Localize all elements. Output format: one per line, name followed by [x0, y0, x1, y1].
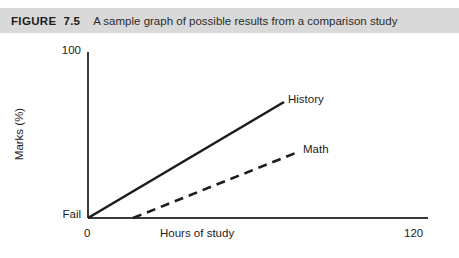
figure-caption-text: A sample graph of possible results from …: [93, 15, 397, 27]
figure-caption-bar: FIGURE 7.5 A sample graph of possible re…: [0, 8, 459, 33]
x-axis-tick-120: 120: [404, 227, 423, 239]
x-axis-tick-0: 0: [84, 227, 90, 239]
chart-svg: [0, 33, 459, 258]
y-axis-tick-fail: Fail: [40, 208, 81, 220]
x-axis-title: Hours of study: [160, 227, 234, 239]
series-line-math: [133, 152, 298, 218]
figure-label-word: FIGURE: [11, 15, 57, 27]
chart-area: Marks (%) Hours of study 100 Fail 0 120 …: [0, 33, 459, 258]
y-axis-title: Marks (%): [13, 89, 25, 179]
series-label-history: History: [288, 93, 324, 105]
figure-page: FIGURE 7.5 A sample graph of possible re…: [0, 0, 459, 258]
series-label-math: Math: [303, 143, 329, 155]
series-line-history: [88, 102, 284, 218]
figure-number: 7.5: [64, 15, 81, 27]
y-axis-tick-100: 100: [40, 44, 81, 56]
